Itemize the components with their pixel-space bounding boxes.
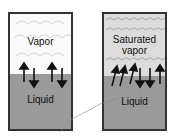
right-container: Saturated vapor Liquid: [102, 12, 167, 131]
left-container: Vapor Liquid: [8, 12, 73, 131]
molecule-arrows: [104, 14, 167, 131]
molecule-arrows: [10, 14, 73, 131]
